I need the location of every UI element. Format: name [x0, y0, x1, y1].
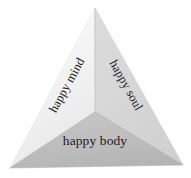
pyramid-figure: happy mind happy soul happy body: [0, 0, 191, 178]
pyramid-graphic: [0, 0, 191, 178]
face-label-happy-body: happy body: [48, 134, 142, 148]
